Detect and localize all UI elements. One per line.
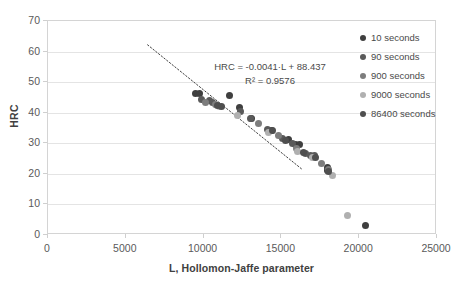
data-point xyxy=(300,149,307,156)
data-point xyxy=(226,92,233,99)
data-point xyxy=(344,212,351,219)
y-axis-tick-label: 10 xyxy=(4,198,40,209)
legend-item[interactable]: 900 seconds xyxy=(360,66,460,85)
x-axis-tick-label: 5000 xyxy=(95,243,155,254)
legend-marker-icon xyxy=(360,54,366,60)
legend-marker-icon xyxy=(360,73,366,79)
x-axis-tick-label: 0 xyxy=(17,243,77,254)
y-axis-tick-label: 60 xyxy=(4,46,40,57)
y-axis-title: HRC xyxy=(8,86,20,146)
x-axis-tick-label: 20000 xyxy=(328,243,388,254)
x-axis-tick-mark xyxy=(125,234,126,238)
legend-item-label: 86400 seconds xyxy=(371,108,435,119)
x-axis-tick-mark xyxy=(280,234,281,238)
data-point xyxy=(275,132,282,139)
regression-equation: HRC = -0.0041·L + 88.437 xyxy=(196,60,344,74)
data-point xyxy=(318,160,325,167)
r-squared-value: R² = 0.9576 xyxy=(196,74,344,88)
data-point xyxy=(247,115,254,122)
y-axis-tick-label: 70 xyxy=(4,15,40,26)
data-point xyxy=(362,222,369,229)
regression-annotation: HRC = -0.0041·L + 88.437 R² = 0.9576 xyxy=(196,60,344,88)
legend: 10 seconds90 seconds900 seconds9000 seco… xyxy=(360,28,460,123)
legend-item[interactable]: 10 seconds xyxy=(360,28,460,47)
legend-item[interactable]: 90 seconds xyxy=(360,47,460,66)
legend-marker-icon xyxy=(360,92,366,98)
x-axis-tick-label: 10000 xyxy=(173,243,233,254)
y-axis-tick-label: 0 xyxy=(4,229,40,240)
gridline xyxy=(48,174,435,175)
legend-item-label: 900 seconds xyxy=(371,70,425,81)
data-point xyxy=(312,154,319,161)
legend-marker-icon xyxy=(360,35,366,41)
data-point xyxy=(255,120,262,127)
legend-marker-icon xyxy=(360,111,366,117)
data-point xyxy=(234,112,241,119)
y-axis-tick-mark xyxy=(43,234,47,235)
legend-item[interactable]: 9000 seconds xyxy=(360,85,460,104)
data-point xyxy=(218,103,225,110)
y-axis-tick-label: 20 xyxy=(4,168,40,179)
x-axis-tick-label: 25000 xyxy=(406,243,461,254)
legend-item-label: 10 seconds xyxy=(371,32,420,43)
data-point xyxy=(202,99,209,106)
x-axis-tick-mark xyxy=(358,234,359,238)
chart-container: 0102030405060700500010000150002000025000… xyxy=(0,0,461,286)
x-axis-tick-mark xyxy=(436,234,437,238)
x-axis-tick-label: 15000 xyxy=(250,243,310,254)
legend-item-label: 90 seconds xyxy=(371,51,420,62)
x-axis-tick-mark xyxy=(47,234,48,238)
legend-item[interactable]: 86400 seconds xyxy=(360,104,460,123)
gridline xyxy=(48,204,435,205)
gridline xyxy=(48,143,435,144)
x-axis-tick-mark xyxy=(203,234,204,238)
legend-item-label: 9000 seconds xyxy=(371,89,430,100)
x-axis-title: L, Hollomon-Jaffe parameter xyxy=(47,262,436,274)
